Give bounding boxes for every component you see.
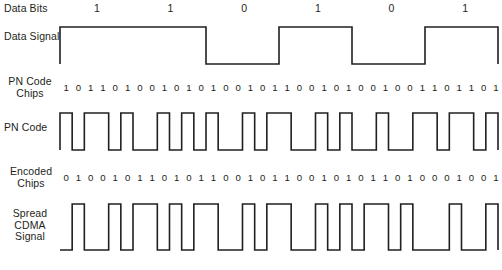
pn-chip-value: 1 xyxy=(490,82,502,94)
pn-chip-value: 0 xyxy=(367,82,379,94)
pn-chip-value: 1 xyxy=(379,82,391,94)
encoded-chip-value: 1 xyxy=(269,172,281,184)
data-bit-value: 1 xyxy=(60,2,134,15)
encoded-chip-value: 0 xyxy=(428,172,440,184)
data-bit-value: 0 xyxy=(355,2,429,15)
pn-code-row: PN Code xyxy=(0,108,502,156)
pn-chip-value: 0 xyxy=(478,82,490,94)
encoded-chip-value: 1 xyxy=(404,172,416,184)
data-signal-row: Data Signal xyxy=(0,22,502,68)
encoded-chip-value: 1 xyxy=(281,172,293,184)
encoded-chip-value: 1 xyxy=(342,172,354,184)
pn-chip-value: 0 xyxy=(306,82,318,94)
pn-chip-value: 0 xyxy=(146,82,158,94)
pn-chip-value: 1 xyxy=(183,82,195,94)
pn-chip-value: 1 xyxy=(97,82,109,94)
encoded-chip-value: 0 xyxy=(441,172,453,184)
pn-chip-value: 0 xyxy=(330,82,342,94)
data-signal-waveform xyxy=(0,22,502,68)
pn-chip-value: 1 xyxy=(342,82,354,94)
pn-chip-value: 1 xyxy=(318,82,330,94)
data-bits-label: Data Bits xyxy=(4,3,48,15)
pn-chip-value: 0 xyxy=(293,82,305,94)
encoded-chip-value: 1 xyxy=(453,172,465,184)
encoded-chips-row: Encoded Chips 01001011010110010110010101… xyxy=(0,166,502,192)
encoded-chip-value: 1 xyxy=(195,172,207,184)
pn-chip-value: 0 xyxy=(355,82,367,94)
encoded-chip-value: 1 xyxy=(367,172,379,184)
encoded-chip-value: 0 xyxy=(85,172,97,184)
pn-chip-value: 1 xyxy=(207,82,219,94)
encoded-chip-value: 0 xyxy=(257,172,269,184)
data-bit-value: 0 xyxy=(207,2,281,15)
encoded-chip-value: 0 xyxy=(293,172,305,184)
encoded-chip-value: 0 xyxy=(220,172,232,184)
encoded-chips-track: 010010110101100101100101011010001001 xyxy=(60,172,502,184)
pn-chip-value: 0 xyxy=(232,82,244,94)
encoded-chip-value: 0 xyxy=(232,172,244,184)
pn-chip-value: 0 xyxy=(404,82,416,94)
encoded-chip-value: 1 xyxy=(244,172,256,184)
encoded-chip-value: 1 xyxy=(134,172,146,184)
encoded-chip-value: 0 xyxy=(416,172,428,184)
pn-chip-value: 0 xyxy=(220,82,232,94)
encoded-chip-value: 1 xyxy=(146,172,158,184)
pn-chip-value: 1 xyxy=(244,82,256,94)
pn-chip-value: 0 xyxy=(257,82,269,94)
encoded-chip-value: 0 xyxy=(355,172,367,184)
data-bits-track: 110101 xyxy=(60,2,502,15)
data-signal-path xyxy=(60,27,498,64)
cdma-spread-spectrum-diagram: Data Bits 110101 Data Signal PN Code Chi… xyxy=(0,0,502,270)
encoded-chip-value: 0 xyxy=(465,172,477,184)
encoded-chip-value: 0 xyxy=(392,172,404,184)
pn-code-chips-label: PN Code Chips xyxy=(4,76,56,99)
encoded-chip-value: 1 xyxy=(318,172,330,184)
encoded-chip-value: 0 xyxy=(330,172,342,184)
spread-cdma-path xyxy=(60,204,498,250)
encoded-chip-value: 0 xyxy=(158,172,170,184)
pn-chip-value: 1 xyxy=(465,82,477,94)
encoded-chip-value: 1 xyxy=(379,172,391,184)
encoded-chip-value: 1 xyxy=(490,172,502,184)
encoded-chip-value: 0 xyxy=(183,172,195,184)
pn-code-waveform xyxy=(0,108,502,156)
pn-chip-value: 1 xyxy=(60,82,72,94)
pn-chip-value: 0 xyxy=(109,82,121,94)
pn-chip-value: 1 xyxy=(453,82,465,94)
pn-code-chips-track: 101101001010100101100101001001101101 xyxy=(60,82,502,94)
data-bits-row: Data Bits 110101 xyxy=(0,2,502,18)
pn-chip-value: 1 xyxy=(416,82,428,94)
pn-chip-value: 1 xyxy=(281,82,293,94)
spread-cdma-signal-waveform xyxy=(0,198,502,266)
pn-code-path xyxy=(60,113,498,150)
data-bit-value: 1 xyxy=(281,2,355,15)
pn-code-chips-row: PN Code Chips 10110100101010010110010100… xyxy=(0,76,502,102)
encoded-chips-label: Encoded Chips xyxy=(4,166,58,189)
encoded-chip-value: 0 xyxy=(478,172,490,184)
encoded-chip-value: 0 xyxy=(121,172,133,184)
encoded-chip-value: 0 xyxy=(97,172,109,184)
pn-chip-value: 1 xyxy=(158,82,170,94)
encoded-chip-value: 0 xyxy=(306,172,318,184)
pn-chip-value: 1 xyxy=(269,82,281,94)
encoded-chip-value: 1 xyxy=(72,172,84,184)
encoded-chip-value: 1 xyxy=(207,172,219,184)
encoded-chip-value: 0 xyxy=(60,172,72,184)
pn-chip-value: 1 xyxy=(85,82,97,94)
pn-chip-value: 0 xyxy=(171,82,183,94)
spread-cdma-signal-row: Spread CDMA Signal xyxy=(0,198,502,266)
pn-chip-value: 1 xyxy=(121,82,133,94)
pn-chip-value: 1 xyxy=(428,82,440,94)
pn-chip-value: 0 xyxy=(441,82,453,94)
pn-chip-value: 0 xyxy=(134,82,146,94)
pn-chip-value: 0 xyxy=(72,82,84,94)
pn-chip-value: 0 xyxy=(392,82,404,94)
pn-chip-value: 0 xyxy=(195,82,207,94)
data-bit-value: 1 xyxy=(428,2,502,15)
encoded-chip-value: 1 xyxy=(171,172,183,184)
data-bit-value: 1 xyxy=(134,2,208,15)
encoded-chip-value: 1 xyxy=(109,172,121,184)
